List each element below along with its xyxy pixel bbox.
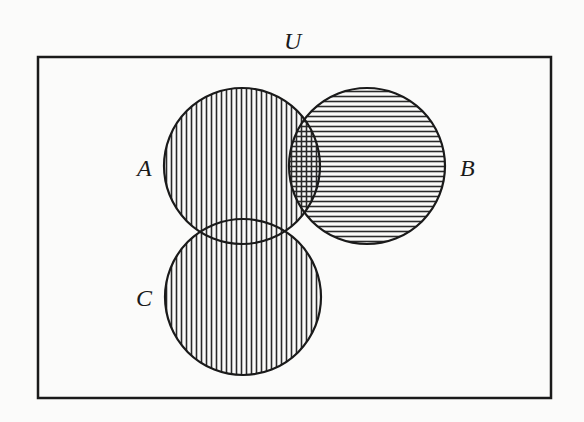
set-b-label: B [460,155,475,181]
set-c-label: C [136,285,153,311]
universe-label: U [284,28,303,54]
venn-diagram: U A B C [0,0,584,422]
set-a-label: A [135,155,152,181]
